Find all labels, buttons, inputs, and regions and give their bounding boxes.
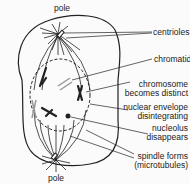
centrioles-label: centrioles [153,28,189,37]
nuclear-envelope-label: nuclear envelopedisintegrating [123,103,188,121]
chromosome-label: chromosomebecomes distinct [125,80,188,98]
chromatid-label: chromatid [154,55,190,64]
spindle-label: spindle forms(microtubules) [134,152,188,170]
pole-top-label: pole [54,4,70,13]
chromatid-light [32,78,72,118]
nucleolus [66,114,71,119]
spindle-bottom [34,110,86,160]
nucleolus-label: nucleolusdisappears [146,124,188,142]
pole-bottom-label: pole [48,174,64,183]
chromosomes [40,68,82,116]
